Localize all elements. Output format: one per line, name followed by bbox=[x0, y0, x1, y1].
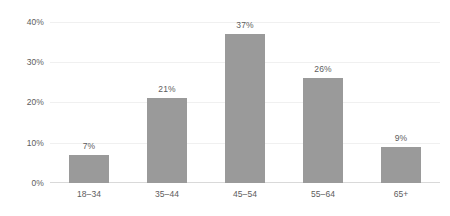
x-axis-category-label: 45–54 bbox=[206, 189, 284, 199]
bar-value-label: 26% bbox=[284, 65, 362, 74]
x-axis-category-label: 55–64 bbox=[284, 189, 362, 199]
y-axis-tick-label: 20% bbox=[4, 98, 44, 107]
bar-slot: 9% bbox=[362, 22, 440, 183]
bar-slot: 7% bbox=[50, 22, 128, 183]
bar-value-label: 9% bbox=[362, 134, 440, 143]
bar-series: 7% 21% 37% 26% 9% bbox=[50, 22, 440, 183]
y-axis-tick-label: 40% bbox=[4, 18, 44, 27]
x-axis-category-label: 18–34 bbox=[50, 189, 128, 199]
bar-value-label: 37% bbox=[206, 21, 284, 30]
x-axis-category-label: 65+ bbox=[362, 189, 440, 199]
bar-value-label: 21% bbox=[128, 85, 206, 94]
y-axis-tick-label: 10% bbox=[4, 139, 44, 148]
bar[interactable] bbox=[381, 147, 421, 183]
bar[interactable] bbox=[147, 98, 187, 183]
bar-chart: 40% 30% 20% 10% 0% 7% 21% 37% 26% 9% 18–… bbox=[0, 0, 450, 216]
y-axis-tick-label: 30% bbox=[4, 58, 44, 67]
bar-slot: 37% bbox=[206, 22, 284, 183]
bar[interactable] bbox=[69, 155, 109, 183]
bar-slot: 21% bbox=[128, 22, 206, 183]
x-axis-labels: 18–34 35–44 45–54 55–64 65+ bbox=[50, 189, 440, 199]
bar-value-label: 7% bbox=[50, 142, 128, 151]
bar-slot: 26% bbox=[284, 22, 362, 183]
bar[interactable] bbox=[303, 78, 343, 183]
x-axis-category-label: 35–44 bbox=[128, 189, 206, 199]
y-axis-tick-label: 0% bbox=[4, 179, 44, 188]
bar[interactable] bbox=[225, 34, 265, 183]
